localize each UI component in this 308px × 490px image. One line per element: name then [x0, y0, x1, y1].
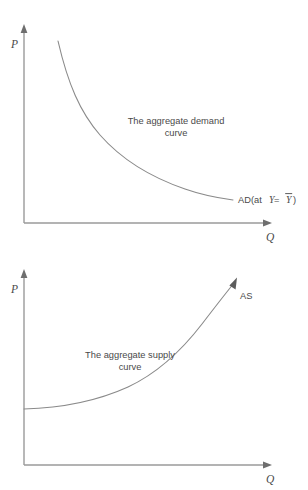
y-axis-label: P — [10, 283, 18, 295]
aggregate-supply-curve — [24, 283, 234, 409]
x-axis-label: Q — [266, 473, 275, 485]
x-axis-arrowhead — [263, 462, 272, 469]
x-axis-label: Q — [266, 231, 275, 243]
as-annotation-line1: The aggregate supply — [85, 350, 175, 360]
as-curve-label: AS — [240, 291, 252, 301]
ad-label-var2: Y — [286, 194, 293, 205]
x-axis-arrowhead — [263, 220, 272, 227]
as-annotation-line2: curve — [119, 362, 142, 372]
figure-root: P Q The aggregate demand curve AD(at Y =… — [0, 0, 308, 490]
ad-label-equals: = — [274, 195, 279, 205]
aggregate-supply-chart: P Q The aggregate supply curve AS — [0, 245, 308, 490]
aggregate-demand-chart: P Q The aggregate demand curve AD(at Y =… — [0, 0, 308, 245]
ad-curve-label: AD(at Y = Y ) — [238, 194, 296, 205]
aggregate-supply-svg: P Q The aggregate supply curve AS — [0, 245, 308, 490]
ad-label-prefix: AD(at — [238, 195, 262, 205]
ad-label-suffix: ) — [293, 195, 296, 205]
aggregate-demand-svg: P Q The aggregate demand curve AD(at Y =… — [0, 0, 308, 245]
y-axis-arrowhead — [21, 24, 28, 33]
y-axis-label: P — [10, 38, 18, 50]
ad-annotation-line1: The aggregate demand — [128, 116, 225, 126]
ad-annotation-line2: curve — [165, 128, 188, 138]
y-axis-arrowhead — [21, 269, 28, 278]
